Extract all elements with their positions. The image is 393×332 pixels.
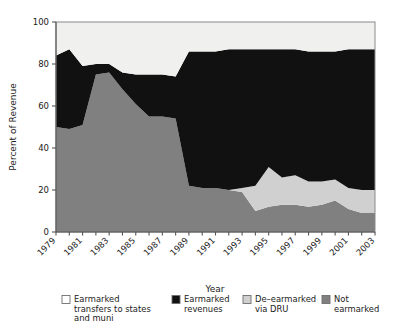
legend-label: transfers to states [74,304,151,314]
x-tick-label: 1979 [35,235,57,257]
x-tick-label: 1995 [248,235,270,257]
y-axis-title: Percent of Revenue [8,83,18,171]
legend-label: Earmarked [74,294,119,304]
y-tick-label: 20 [38,185,49,195]
legend-label: and muni [74,313,114,323]
legend-label: earmarked [334,304,379,314]
y-tick-label: 80 [38,59,49,69]
y-axis: 020406080100 [33,17,56,237]
x-tick-label: 1989 [168,235,190,257]
legend-label: Earmarked [184,294,229,304]
x-tick-label: 2003 [354,235,376,257]
x-tick-label: 1993 [221,235,243,257]
plot-area [56,22,375,232]
legend-swatch [322,296,330,304]
y-tick-label: 100 [33,17,49,27]
x-axis: 1979198119831985198719891991199319951997… [35,232,376,258]
y-tick-label: 40 [38,143,49,153]
x-tick-label: 1991 [195,235,217,257]
legend-label: via DRU [255,304,288,314]
legend-label: Not [334,294,349,304]
x-tick-label: 1997 [274,235,296,257]
x-tick-label: 1983 [88,235,110,257]
x-tick-label: 1981 [62,235,84,257]
legend-label: De–earmarked [255,294,316,304]
x-tick-label: 2001 [327,235,349,257]
legend-swatch [243,296,251,304]
legend-swatch [172,296,180,304]
chart-legend: Earmarkedtransfers to statesand muniEarm… [62,294,379,323]
x-axis-title: Year [204,284,224,294]
stacked-area-chart: 020406080100 197919811983198519871989199… [0,0,393,332]
x-tick-label: 1985 [115,235,137,257]
legend-swatch [62,296,70,304]
x-tick-label: 1999 [301,235,323,257]
x-tick-label: 1987 [141,235,163,257]
chart-figure: 020406080100 197919811983198519871989199… [0,0,393,332]
y-tick-label: 60 [38,101,49,111]
legend-label: revenues [184,304,223,314]
y-tick-label: 0 [44,227,49,237]
